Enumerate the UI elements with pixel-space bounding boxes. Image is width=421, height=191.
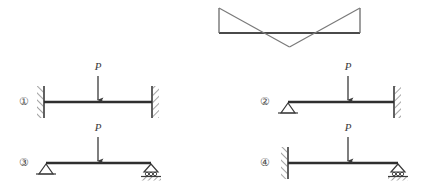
- beam-2-load-label: P: [344, 60, 352, 72]
- beam-4: ④ P: [260, 121, 408, 181]
- beam-2-right-fixed-support: [394, 86, 401, 118]
- beam-1-right-fixed-support: [152, 86, 159, 118]
- moment-diagonal-right: [290, 8, 361, 47]
- beam-1-index: ①: [19, 95, 29, 107]
- beam-4-load-label: P: [344, 121, 352, 133]
- beam-1-load-label: P: [94, 60, 102, 72]
- beam-4-right-roller-support: [388, 164, 408, 181]
- beam-3-right-roller-support: [141, 164, 161, 181]
- beam-2-left-pin-support: [278, 103, 298, 113]
- beam-1-left-fixed-support: [37, 86, 44, 118]
- beam-3-index: ③: [19, 156, 29, 168]
- beam-3-load-label: P: [94, 121, 102, 133]
- beam-4-left-fixed-support: [281, 147, 288, 179]
- beam-3: ③ P: [19, 121, 161, 181]
- beam-3-left-pin-support: [36, 164, 56, 174]
- bending-moment-diagram: [219, 8, 360, 47]
- beam-2-index: ②: [260, 95, 270, 107]
- beam-1: ① P: [19, 60, 159, 118]
- beam-2: ② P: [260, 60, 401, 118]
- moment-diagonal-left: [219, 8, 290, 47]
- beam-4-index: ④: [260, 156, 270, 168]
- diagram-canvas: ① P ② P ③: [0, 0, 421, 191]
